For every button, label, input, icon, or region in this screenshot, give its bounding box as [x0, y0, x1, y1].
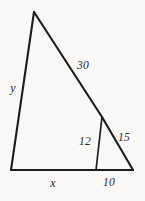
label-base-x: x: [50, 177, 56, 189]
label-side-15: 15: [118, 132, 130, 144]
upper-hypotenuse-line: [34, 12, 102, 117]
label-base-10: 10: [103, 177, 115, 189]
label-side-12: 12: [79, 136, 91, 148]
geometry-figure: y 30 12 15 x 10: [0, 0, 145, 201]
label-side-30: 30: [77, 60, 89, 72]
inner-segment-line: [96, 117, 102, 170]
triangle-drawing: [0, 0, 145, 201]
label-side-y: y: [10, 82, 16, 94]
